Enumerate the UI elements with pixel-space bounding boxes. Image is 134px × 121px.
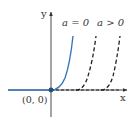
curve-a-equals-0 xyxy=(51,36,73,90)
label-a-greater-0: a > 0 xyxy=(97,17,125,28)
graph-canvas: y x (0, 0) a = 0 a > 0 xyxy=(0,0,134,121)
curve-a-greater-0-second xyxy=(101,36,120,90)
x-axis-label: x xyxy=(120,92,126,103)
y-axis-label: y xyxy=(40,8,47,19)
origin-label: (0, 0) xyxy=(22,94,48,105)
curve-a-greater-0-first xyxy=(76,36,96,90)
origin-point xyxy=(49,88,54,93)
label-a-equals-0: a = 0 xyxy=(62,17,90,28)
